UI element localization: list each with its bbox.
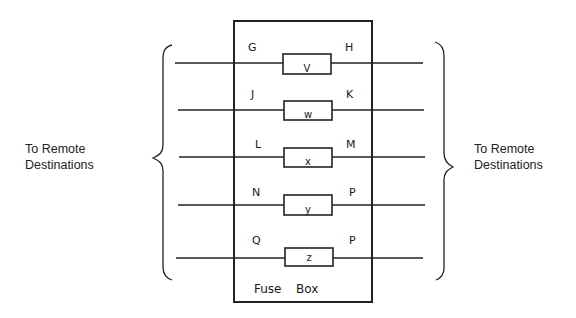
fuse-label: x: [284, 156, 332, 167]
fuse-label: V: [283, 63, 331, 74]
left-caption-line: Destinations: [25, 157, 94, 173]
terminal-label: P: [349, 235, 356, 247]
terminal-label: H: [345, 42, 353, 54]
left-caption-line: To Remote: [25, 141, 94, 157]
right-caption-line: To Remote: [474, 141, 543, 157]
terminal-label: P: [349, 187, 356, 199]
terminal-label: N: [252, 187, 260, 199]
terminal-label: K: [346, 89, 353, 101]
terminal-label: L: [255, 139, 261, 151]
fuse-box-title-word: Box: [296, 282, 318, 296]
terminal-label: M: [346, 139, 356, 151]
right-caption-line: Destinations: [474, 157, 543, 173]
terminal-label: Q: [252, 235, 261, 247]
left-caption: To Remote Destinations: [25, 141, 94, 173]
terminal-label: J: [251, 89, 254, 101]
right-brace: [435, 42, 453, 280]
left-brace: [153, 45, 172, 280]
fuse-box-title-word: Fuse: [254, 282, 282, 296]
fuse-label: w: [284, 109, 332, 120]
fuse-label: y: [284, 204, 332, 215]
right-caption: To Remote Destinations: [474, 141, 543, 173]
fuse-label: z: [285, 252, 333, 263]
terminal-label: G: [248, 42, 257, 54]
